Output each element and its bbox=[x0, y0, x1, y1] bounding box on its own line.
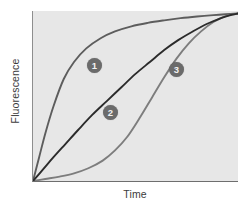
curves-svg bbox=[33, 11, 238, 181]
curve-3-path bbox=[33, 14, 238, 181]
curve-1-path bbox=[33, 14, 238, 181]
y-axis-label-text: Fluorescence bbox=[9, 59, 21, 124]
curve-3-marker: 3 bbox=[169, 62, 184, 77]
curve-2-path bbox=[33, 14, 238, 181]
plot-area: 1 2 3 bbox=[32, 11, 238, 182]
y-axis-label: Fluorescence bbox=[0, 0, 30, 182]
fluorescence-time-chart: Fluorescence 1 2 3 Time bbox=[0, 0, 248, 209]
x-axis-label: Time bbox=[32, 188, 238, 200]
curve-2-marker: 2 bbox=[103, 105, 118, 120]
curve-1-marker: 1 bbox=[87, 58, 102, 73]
